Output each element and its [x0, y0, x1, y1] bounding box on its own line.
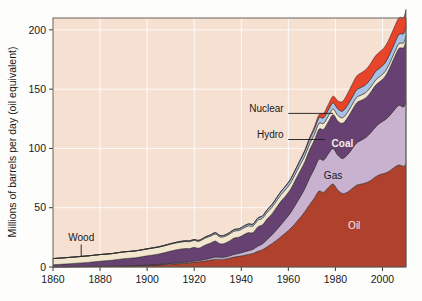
tick-label-x-1940: 1940 [230, 273, 254, 285]
energy-consumption-stacked-area-chart: 0501001502001860188019001920194019601980… [0, 0, 422, 301]
tick-label-x-1920: 1920 [183, 273, 207, 285]
tick-label-y-100: 100 [28, 142, 46, 154]
y-axis-title: Millions of barrels per day (oil equival… [6, 47, 18, 238]
chart-figure: 0501001502001860188019001920194019601980… [0, 0, 422, 301]
tick-label-x-1960: 1960 [277, 273, 301, 285]
tick-label-x-2000: 2000 [371, 273, 395, 285]
tick-label-x-1860: 1860 [41, 273, 65, 285]
series-label-hydro: Hydro [257, 129, 284, 140]
series-label-gas: Gas [324, 170, 342, 181]
tick-label-y-0: 0 [40, 261, 46, 273]
tick-label-y-150: 150 [28, 83, 46, 95]
series-label-wood: Wood [68, 232, 94, 243]
series-label-nuclear: Nuclear [249, 103, 284, 114]
tick-label-y-50: 50 [34, 201, 46, 213]
tick-label-x-1880: 1880 [88, 273, 112, 285]
tick-label-x-1980: 1980 [324, 273, 348, 285]
tick-label-y-200: 200 [28, 24, 46, 36]
series-label-coal: Coal [332, 138, 354, 149]
tick-label-x-1900: 1900 [135, 273, 159, 285]
series-label-oil: Oil [348, 220, 360, 231]
